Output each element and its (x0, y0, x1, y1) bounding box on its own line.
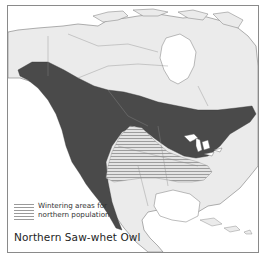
legend: Wintering areas for northern population (14, 202, 110, 220)
map-title: Northern Saw-whet Owl (14, 231, 140, 243)
legend-label: Wintering areas for northern population (38, 202, 110, 219)
hatch-swatch-icon (14, 204, 34, 220)
legend-line-2: northern population (38, 211, 110, 220)
caribbean-islands (200, 218, 252, 234)
map-frame: Wintering areas for northern population … (7, 5, 259, 253)
